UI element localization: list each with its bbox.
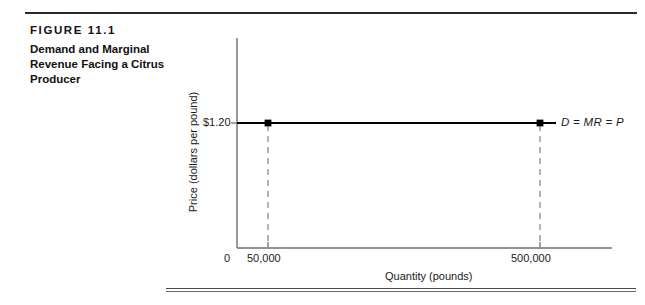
y-axis-title: Price (dollars per pound) <box>186 62 200 242</box>
data-point-marker-50000 <box>265 120 272 127</box>
demand-curve-label: D = MR = P <box>561 116 624 128</box>
figure-bottom-rule-line-2 <box>166 291 636 292</box>
y-axis-title-text: Price (dollars per pound) <box>187 92 199 212</box>
x-axis-label-500000: 500,000 <box>511 252 551 264</box>
axis-origin-label: 0 <box>224 252 230 264</box>
data-point-marker-500000 <box>537 120 544 127</box>
figure-bottom-rule <box>166 288 636 292</box>
y-axis-label-price: $1.20 <box>203 116 231 128</box>
figure-bottom-rule-line-1 <box>166 288 636 289</box>
x-axis-title: Quantity (pounds) <box>385 270 472 282</box>
x-axis-label-50000: 50,000 <box>247 252 281 264</box>
